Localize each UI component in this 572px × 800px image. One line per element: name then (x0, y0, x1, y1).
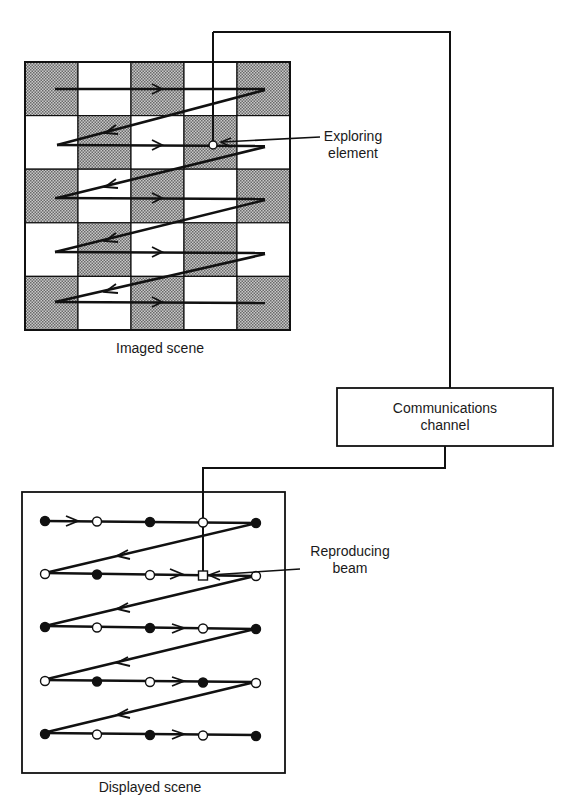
display-element-open (199, 518, 208, 527)
grid-cell (237, 223, 290, 277)
display-element-filled (41, 623, 50, 632)
label-line: Reproducing (295, 543, 405, 560)
reproducing-beam-marker (199, 571, 208, 580)
label-line: Exploring (298, 128, 408, 145)
reproducing-beam-label: Reproducing beam (295, 543, 405, 577)
display-element-open (41, 570, 50, 579)
channel-label: Communications channel (337, 400, 553, 434)
display-element-filled (252, 732, 261, 741)
display-element-filled (146, 731, 155, 740)
grid-cell (237, 116, 290, 170)
display-element-filled (93, 570, 102, 579)
imaged-scene-label: Imaged scene (90, 340, 230, 357)
display-element-open (146, 571, 155, 580)
display-element-open (93, 623, 102, 632)
label-line: element (298, 145, 408, 162)
display-element-filled (146, 624, 155, 633)
grid-cell (78, 169, 131, 223)
label-line: beam (295, 560, 405, 577)
display-element-filled (41, 730, 50, 739)
grid-cell (237, 169, 290, 223)
display-element-filled (93, 677, 102, 686)
grid-cell (184, 223, 237, 277)
display-element-filled (252, 625, 261, 634)
exploring-element-label: Exploring element (298, 128, 408, 162)
display-element-filled (252, 519, 261, 528)
display-element-open (41, 677, 50, 686)
grid-cell (78, 116, 131, 170)
display-element-filled (41, 517, 50, 526)
display-element-open (199, 731, 208, 740)
display-element-open (146, 678, 155, 687)
display-element-open (199, 624, 208, 633)
display-element-open (93, 730, 102, 739)
displayed-scene-label: Displayed scene (70, 779, 230, 796)
exploring-element-marker (209, 141, 217, 149)
label-line: Communications (337, 400, 553, 417)
display-element-filled (199, 678, 208, 687)
display-element-open (93, 517, 102, 526)
grid-cell (78, 223, 131, 277)
display-element-open (252, 679, 261, 688)
display-element-filled (146, 518, 155, 527)
label-line: channel (337, 417, 553, 434)
